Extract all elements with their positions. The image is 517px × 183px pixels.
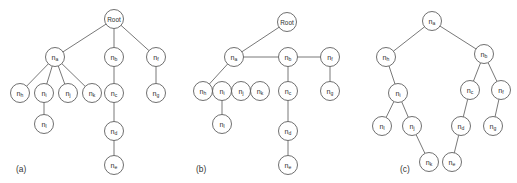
tree-node-a[interactable]: na: [46, 48, 65, 67]
tree-node-e[interactable]: ne: [279, 156, 298, 175]
tree-edge-a-h: [27, 64, 49, 86]
node-label-subscript: c: [115, 92, 118, 98]
tree-node-j[interactable]: nj: [403, 117, 422, 136]
tree-node-j[interactable]: nj: [232, 82, 251, 101]
tree-node-c[interactable]: nc: [461, 81, 480, 100]
tree-representations-figure: Rootnanbnfnhninjnkncngnlndne(a)Rootnanbn…: [0, 0, 517, 183]
node-label-subscript: l: [223, 123, 224, 129]
tree-edge-a-j: [58, 66, 65, 84]
tree-edge-root-a: [63, 24, 106, 52]
panel-caption-b: (b): [196, 164, 206, 174]
tree-node-i[interactable]: ni: [35, 84, 54, 103]
tree-node-k[interactable]: nk: [83, 84, 102, 103]
tree-node-a[interactable]: na: [423, 12, 442, 31]
tree-edge-c-d: [463, 99, 467, 117]
tree-edge-b-c: [473, 63, 480, 81]
node-label-subscript: d: [462, 125, 465, 131]
node-label-subscript: h: [387, 56, 390, 62]
tree-node-e[interactable]: ne: [443, 153, 462, 172]
panel-caption-a: (a): [16, 164, 26, 174]
tree-node-g[interactable]: ng: [321, 82, 340, 101]
node-label-subscript: k: [261, 90, 264, 96]
tree-edge-a-k: [62, 64, 85, 87]
tree-node-a[interactable]: na: [225, 48, 244, 67]
node-label-subscript: e: [453, 161, 456, 167]
tree-node-l[interactable]: nl: [35, 115, 54, 134]
node-label-subscript: a: [433, 20, 436, 26]
node-label-subscript: d: [115, 130, 118, 136]
tree-node-h[interactable]: nh: [377, 48, 396, 67]
tree-node-f[interactable]: nf: [492, 81, 511, 100]
node-label-subscript: j: [68, 92, 70, 98]
tree-edge-i-j: [402, 102, 409, 118]
node-label-subscript: j: [412, 125, 414, 131]
tree-edge-d-e: [454, 135, 458, 153]
tree-edge-root-a: [242, 27, 279, 52]
node-label-subscript: b: [485, 53, 488, 59]
tree-edge-a-h: [209, 64, 227, 84]
tree-edge-j-k: [416, 135, 425, 154]
tree-node-d[interactable]: nd: [279, 122, 298, 141]
node-label-subscript: g: [494, 125, 497, 131]
node-label-subscript: h: [204, 90, 207, 96]
node-label-subscript: j: [241, 90, 243, 96]
tree-node-d[interactable]: nd: [105, 122, 124, 141]
node-label-subscript: l: [45, 123, 46, 129]
tree-edge-root-f: [121, 25, 149, 50]
panel-caption-c: (c): [400, 164, 410, 174]
tree-node-e[interactable]: ne: [105, 156, 124, 175]
tree-node-j[interactable]: nj: [59, 84, 78, 103]
panel-a: Rootnanbnfnhninjnkncngnlndne(a): [11, 10, 166, 175]
node-label-subscript: i: [223, 90, 224, 96]
node-label: Root: [107, 16, 121, 23]
node-label-subscript: a: [235, 56, 238, 62]
tree-node-c[interactable]: nc: [105, 84, 124, 103]
figure-canvas: Rootnanbnfnhninjnkncngnlndne(a)Rootnanbn…: [0, 0, 517, 183]
panel-b: Rootnanbnfnhninjnkncngnlndne(b): [194, 13, 340, 175]
node-label-subscript: d: [289, 130, 292, 136]
node-label-subscript: b: [115, 56, 118, 62]
tree-node-i[interactable]: ni: [213, 82, 232, 101]
tree-node-f[interactable]: nf: [321, 48, 340, 67]
tree-edge-b-f: [488, 63, 497, 82]
node-label-subscript: k: [93, 92, 96, 98]
tree-node-k[interactable]: nk: [251, 82, 270, 101]
tree-node-k[interactable]: nk: [420, 153, 439, 172]
node-label-subscript: k: [430, 161, 433, 167]
tree-edge-a-i: [47, 66, 52, 84]
tree-node-b[interactable]: nb: [279, 48, 298, 67]
node-label-subscript: c: [471, 89, 474, 95]
node-label-subscript: h: [21, 92, 24, 98]
tree-edge-f-g: [495, 99, 499, 116]
tree-edge-a-b: [440, 26, 476, 49]
tree-node-g[interactable]: ng: [484, 117, 503, 136]
tree-node-l[interactable]: nl: [213, 115, 232, 134]
tree-edge-h-i: [389, 66, 395, 84]
node-label-subscript: e: [115, 164, 118, 170]
node-label-subscript: c: [289, 90, 292, 96]
node-label-subscript: i: [399, 92, 400, 98]
tree-edge-i-l: [386, 102, 394, 118]
panel-c: nanhnbnincnfnlnjndngnkne(c): [373, 12, 511, 175]
tree-node-g[interactable]: ng: [147, 84, 166, 103]
tree-node-i[interactable]: ni: [389, 84, 408, 103]
tree-node-root[interactable]: Root: [278, 13, 297, 32]
tree-node-root[interactable]: Root: [105, 10, 124, 29]
node-label-subscript: b: [289, 56, 292, 62]
node-label-subscript: a: [56, 56, 59, 62]
tree-node-c[interactable]: nc: [279, 82, 298, 101]
tree-node-f[interactable]: nf: [147, 48, 166, 67]
tree-edge-a-h: [393, 27, 424, 51]
tree-node-b[interactable]: nb: [105, 48, 124, 67]
node-label-subscript: e: [289, 164, 292, 170]
tree-node-h[interactable]: nh: [194, 82, 213, 101]
tree-node-b[interactable]: nb: [475, 45, 494, 64]
node-label: Root: [280, 19, 294, 26]
tree-node-h[interactable]: nh: [11, 84, 30, 103]
node-label-subscript: l: [383, 125, 384, 131]
node-label-subscript: i: [45, 92, 46, 98]
node-label-subscript: g: [157, 92, 160, 98]
node-label-subscript: g: [331, 90, 334, 96]
tree-node-d[interactable]: nd: [452, 117, 471, 136]
tree-node-l[interactable]: nl: [373, 117, 392, 136]
